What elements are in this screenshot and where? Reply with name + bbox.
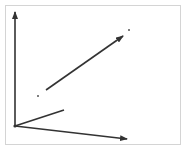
short-vector [15, 110, 64, 126]
point-b [128, 29, 130, 31]
long-vector [46, 36, 123, 90]
point-a [37, 95, 39, 97]
diagram-canvas [0, 0, 189, 150]
origin-point [13, 124, 16, 127]
x-axis [15, 126, 127, 139]
